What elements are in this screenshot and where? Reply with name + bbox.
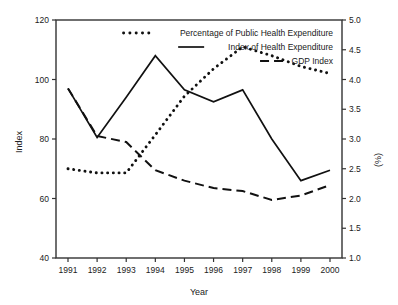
legend-label: Percentage of Public Health Expenditure xyxy=(180,28,333,38)
left-tick-label: 80 xyxy=(40,134,50,144)
x-tick-label: 1994 xyxy=(146,265,165,275)
right-tick-label: 3.0 xyxy=(349,134,361,144)
x-tick-label: 1993 xyxy=(117,265,136,275)
x-tick-label: 1991 xyxy=(59,265,78,275)
x-axis-title: Year xyxy=(190,287,208,297)
x-tick-label: 1995 xyxy=(175,265,194,275)
left-tick-label: 40 xyxy=(40,253,50,263)
right-tick-label: 4.0 xyxy=(349,75,361,85)
chart-background xyxy=(0,0,398,305)
right-tick-label: 2.5 xyxy=(349,164,361,174)
x-tick-label: 2000 xyxy=(321,265,340,275)
right-tick-label: 4.5 xyxy=(349,45,361,55)
legend-label: GDP Index xyxy=(292,56,334,66)
x-tick-label: 1998 xyxy=(262,265,281,275)
right-tick-label: 5.0 xyxy=(349,15,361,25)
x-tick-label: 1997 xyxy=(233,265,252,275)
line-chart: 406080100120 1.01.52.02.53.03.54.04.55.0… xyxy=(0,0,398,305)
right-tick-label: 1.5 xyxy=(349,223,361,233)
x-tick-label: 1992 xyxy=(88,265,107,275)
left-tick-label: 60 xyxy=(40,194,50,204)
right-tick-label: 2.0 xyxy=(349,194,361,204)
legend-label: Index of Health Expenditure xyxy=(228,42,333,52)
y2-axis-title: (%) xyxy=(373,153,383,167)
chart-container: 406080100120 1.01.52.02.53.03.54.04.55.0… xyxy=(0,0,398,305)
left-tick-label: 120 xyxy=(35,15,49,25)
right-tick-label: 3.5 xyxy=(349,104,361,114)
x-tick-label: 1999 xyxy=(291,265,310,275)
y-axis-title: Index xyxy=(14,130,24,153)
right-tick-label: 1.0 xyxy=(349,253,361,263)
x-tick-label: 1996 xyxy=(204,265,223,275)
left-tick-label: 100 xyxy=(35,75,49,85)
